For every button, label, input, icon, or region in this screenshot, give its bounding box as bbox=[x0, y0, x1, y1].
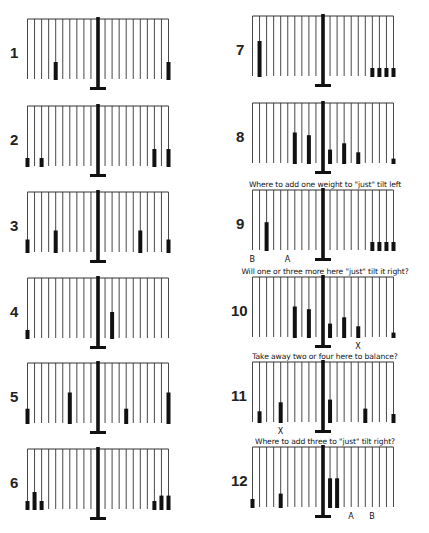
weight-stack bbox=[279, 494, 283, 508]
panel-question: Where to add one weight to "just" tilt l… bbox=[249, 180, 401, 189]
panel-question: Take away two or four here to balance? bbox=[252, 352, 397, 361]
position-label: B bbox=[369, 512, 375, 521]
weight-stack bbox=[335, 478, 339, 508]
position-label: A bbox=[348, 512, 353, 521]
weight-stack bbox=[328, 478, 332, 508]
panel-question: Will one or three more here "just" tilt … bbox=[241, 267, 408, 276]
weight-stack bbox=[251, 499, 255, 508]
panel-question: Where to add three to "just" tilt right? bbox=[255, 437, 395, 446]
